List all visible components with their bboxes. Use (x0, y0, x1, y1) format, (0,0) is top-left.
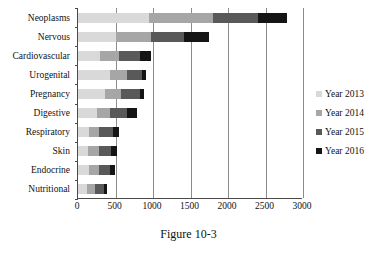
category-tick (75, 27, 78, 28)
category-tick (75, 46, 78, 47)
x-axis-tick-label-2000: 2000 (218, 200, 237, 213)
bar-nutritional[interactable] (78, 184, 107, 194)
bar-segment-neoplasms-year-2016[interactable] (258, 13, 287, 23)
category-tick (75, 161, 78, 162)
category-tick (75, 65, 78, 66)
category-tick (75, 104, 78, 105)
figure-caption-text: Figure 10-3 (160, 226, 216, 242)
bar-segment-nervous-year-2014[interactable] (116, 32, 151, 42)
legend-item-year-2015[interactable]: Year 2015 (316, 122, 381, 141)
category-label-nervous: Nervous (38, 32, 70, 42)
category-tick (75, 142, 78, 143)
chart-legend: Year 2013Year 2014Year 2015Year 2016 (316, 84, 381, 160)
category-axis-labels: NeoplasmsNervousCardiovascularUrogenital… (0, 8, 74, 199)
category-label-pregnancy: Pregnancy (30, 89, 70, 99)
bar-digestive[interactable] (78, 108, 137, 118)
x-axis-tick-label-1000: 1000 (143, 200, 162, 213)
bar-segment-digestive-year-2013[interactable] (78, 108, 97, 118)
category-tick (75, 8, 78, 9)
bar-series-group (78, 8, 302, 198)
bar-skin[interactable] (78, 146, 117, 156)
bar-segment-nervous-year-2013[interactable] (78, 32, 116, 42)
bar-segment-nutritional-year-2014[interactable] (87, 184, 95, 194)
bar-segment-respiratory-year-2015[interactable] (99, 127, 113, 137)
bar-segment-urogenital-year-2015[interactable] (127, 70, 142, 80)
category-label-urogenital: Urogenital (29, 70, 70, 80)
bar-segment-skin-year-2013[interactable] (78, 146, 88, 156)
bar-cardiovascular[interactable] (78, 51, 151, 61)
bar-segment-pregnancy-year-2015[interactable] (121, 89, 140, 99)
x-axis-tick-label-2500: 2500 (255, 200, 274, 213)
bar-segment-cardiovascular-year-2014[interactable] (100, 51, 119, 61)
category-label-nutritional: Nutritional (28, 184, 70, 194)
legend-swatch-year-2016 (316, 148, 322, 154)
legend-item-year-2013[interactable]: Year 2013 (316, 84, 381, 103)
legend-label: Year 2015 (325, 127, 364, 137)
bar-segment-nutritional-year-2016[interactable] (104, 184, 107, 194)
category-tick (75, 180, 78, 181)
x-axis-tick-label-500: 500 (107, 200, 121, 213)
category-label-neoplasms: Neoplasms (28, 13, 70, 23)
legend-item-year-2014[interactable]: Year 2014 (316, 103, 381, 122)
plot-area (77, 8, 302, 199)
bar-respiratory[interactable] (78, 127, 119, 137)
category-label-respiratory: Respiratory (26, 127, 70, 137)
legend-item-year-2016[interactable]: Year 2016 (316, 141, 381, 160)
bar-segment-endocrine-year-2013[interactable] (78, 165, 89, 175)
bar-segment-cardiovascular-year-2013[interactable] (78, 51, 100, 61)
bar-segment-pregnancy-year-2016[interactable] (140, 89, 145, 99)
bar-segment-pregnancy-year-2014[interactable] (105, 89, 121, 99)
bar-segment-cardiovascular-year-2015[interactable] (119, 51, 140, 61)
legend-label: Year 2016 (325, 146, 364, 156)
bar-segment-digestive-year-2015[interactable] (110, 108, 127, 118)
category-label-skin: Skin (53, 146, 70, 156)
category-tick (75, 123, 78, 124)
category-tick (75, 84, 78, 85)
bar-segment-respiratory-year-2014[interactable] (89, 127, 99, 137)
bar-endocrine[interactable] (78, 165, 115, 175)
category-label-endocrine: Endocrine (31, 165, 70, 175)
chart-area: NeoplasmsNervousCardiovascularUrogenital… (0, 0, 381, 215)
gridline-3000 (303, 8, 304, 198)
bar-segment-endocrine-year-2016[interactable] (110, 165, 115, 175)
bar-segment-endocrine-year-2014[interactable] (89, 165, 99, 175)
legend-swatch-year-2013 (316, 91, 322, 97)
bar-segment-pregnancy-year-2013[interactable] (78, 89, 105, 99)
x-axis-tick-label-3000: 3000 (293, 200, 312, 213)
legend-label: Year 2014 (325, 108, 364, 118)
figure-caption: Figure 10-3 (0, 226, 381, 242)
bar-segment-neoplasms-year-2013[interactable] (78, 13, 149, 23)
legend-swatch-year-2014 (316, 110, 322, 116)
x-axis-tick-label-1500: 1500 (180, 200, 199, 213)
legend-swatch-year-2015 (316, 129, 322, 135)
category-label-digestive: Digestive (34, 108, 70, 118)
bar-segment-neoplasms-year-2015[interactable] (213, 13, 258, 23)
x-axis-tick-label-0: 0 (75, 200, 80, 213)
bar-neoplasms[interactable] (78, 13, 287, 23)
bar-pregnancy[interactable] (78, 89, 144, 99)
bar-segment-endocrine-year-2015[interactable] (99, 165, 110, 175)
bar-segment-nervous-year-2015[interactable] (151, 32, 184, 42)
bar-segment-nutritional-year-2013[interactable] (78, 184, 87, 194)
bar-segment-nutritional-year-2015[interactable] (95, 184, 105, 194)
bar-segment-nervous-year-2016[interactable] (184, 32, 210, 42)
category-label-cardiovascular: Cardiovascular (12, 51, 70, 61)
bar-segment-digestive-year-2016[interactable] (127, 108, 137, 118)
bar-segment-urogenital-year-2016[interactable] (142, 70, 147, 80)
bar-segment-neoplasms-year-2014[interactable] (149, 13, 213, 23)
bar-nervous[interactable] (78, 32, 209, 42)
bar-segment-skin-year-2016[interactable] (111, 146, 117, 156)
figure-container: NeoplasmsNervousCardiovascularUrogenital… (0, 0, 381, 253)
value-axis-labels: 050010001500200025003000 (0, 200, 381, 216)
bar-segment-urogenital-year-2014[interactable] (110, 70, 127, 80)
bar-segment-skin-year-2015[interactable] (99, 146, 111, 156)
bar-segment-cardiovascular-year-2016[interactable] (140, 51, 151, 61)
bar-segment-respiratory-year-2016[interactable] (113, 127, 119, 137)
bar-segment-urogenital-year-2013[interactable] (78, 70, 110, 80)
bar-segment-skin-year-2014[interactable] (88, 146, 99, 156)
legend-label: Year 2013 (325, 89, 364, 99)
bar-urogenital[interactable] (78, 70, 146, 80)
bar-segment-digestive-year-2014[interactable] (97, 108, 110, 118)
bar-segment-respiratory-year-2013[interactable] (78, 127, 89, 137)
